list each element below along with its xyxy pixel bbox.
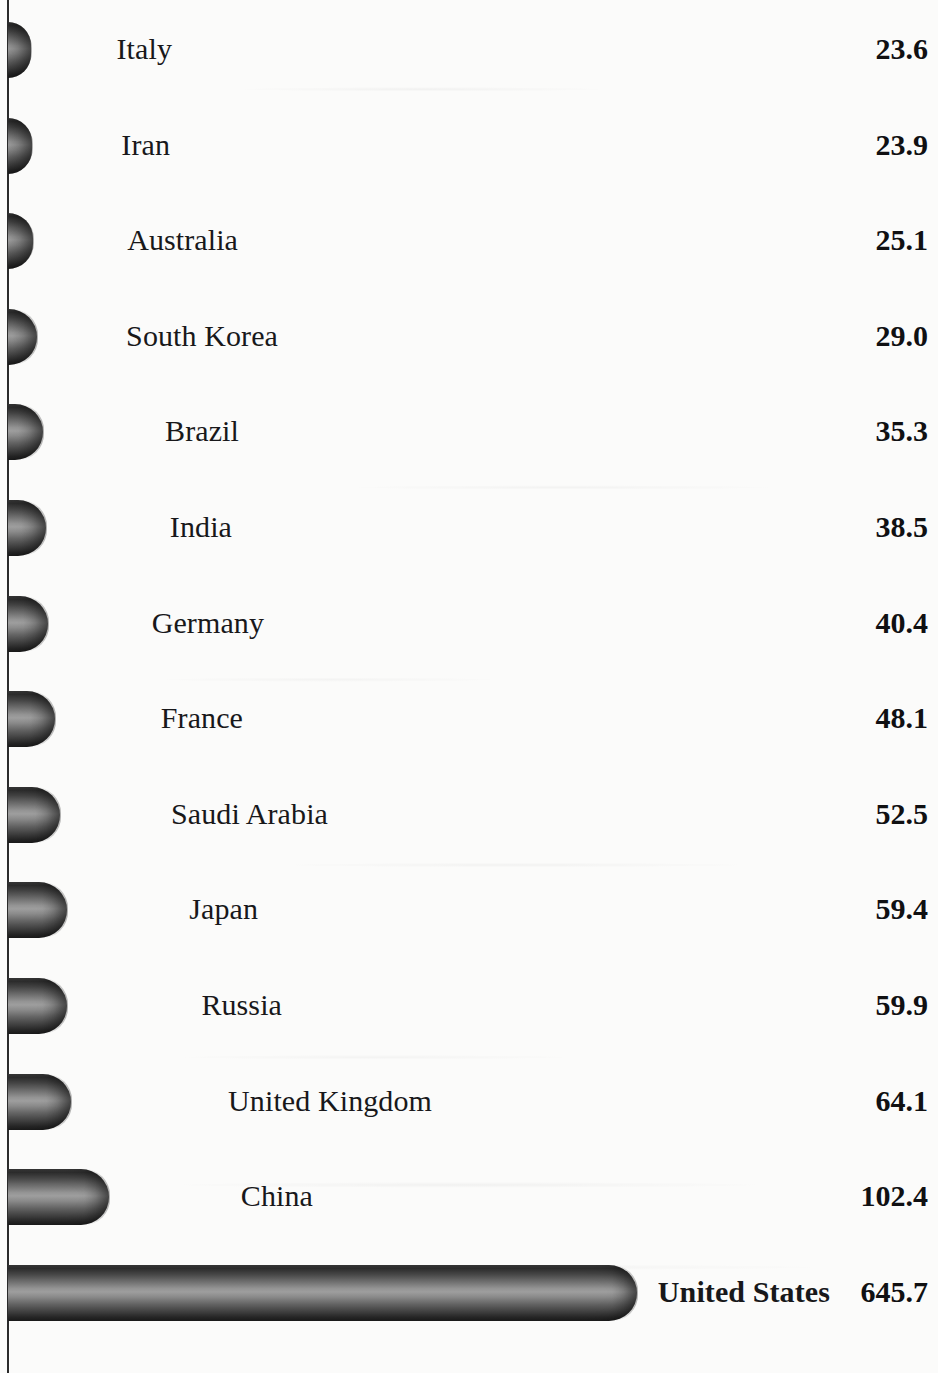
category-label: Iran [121,122,170,168]
category-label: France [161,695,243,741]
bar-south-korea [8,309,37,365]
bar-united-states [8,1265,637,1321]
category-label: Brazil [165,408,239,454]
bar-australia [8,213,33,269]
category-label: Australia [127,217,238,263]
chart-row: Japan59.4 [0,862,938,958]
category-label: China [241,1173,313,1219]
category-label: Italy [117,26,172,72]
bar-japan [8,882,67,938]
bar-india [8,500,46,556]
value-label: 38.5 [768,504,928,550]
bar-iran [8,118,32,174]
value-label: 59.4 [768,886,928,932]
chart-row: Iran23.9 [0,98,938,194]
chart-row: South Korea29.0 [0,289,938,385]
chart-row: Italy23.6 [0,2,938,98]
category-label: United Kingdom [228,1078,432,1124]
bar-italy [8,22,31,78]
value-label: 23.9 [768,122,928,168]
value-label: 59.9 [768,982,928,1028]
chart-row: India38.5 [0,480,938,576]
bar-russia [8,978,67,1034]
value-label: 52.5 [768,791,928,837]
bar-brazil [8,404,43,460]
chart-row: United States645.7 [0,1245,938,1341]
bar-germany [8,596,48,652]
value-label: 23.6 [768,26,928,72]
chart-row: Saudi Arabia52.5 [0,767,938,863]
value-label: 64.1 [768,1078,928,1124]
value-label: 102.4 [768,1173,928,1219]
chart-row: Germany40.4 [0,576,938,672]
bar-france [8,691,55,747]
category-label: Russia [201,982,282,1028]
value-label: 48.1 [768,695,928,741]
category-label: South Korea [126,313,278,359]
category-label: Saudi Arabia [171,791,328,837]
value-label: 29.0 [768,313,928,359]
value-label: 25.1 [768,217,928,263]
category-label: Japan [189,886,258,932]
bar-united-kingdom [8,1074,71,1130]
bar-china [8,1169,109,1225]
value-label: 35.3 [768,408,928,454]
bar-chart: Italy23.6Iran23.9Australia25.1South Kore… [0,0,938,1373]
value-label: 40.4 [768,600,928,646]
category-label: India [170,504,232,550]
chart-row: United Kingdom64.1 [0,1054,938,1150]
value-label: 645.7 [768,1269,928,1315]
chart-row: Brazil35.3 [0,384,938,480]
chart-row: China102.4 [0,1149,938,1245]
bar-saudi-arabia [8,787,60,843]
chart-row: Australia25.1 [0,193,938,289]
category-label: Germany [152,600,264,646]
chart-row: Russia59.9 [0,958,938,1054]
chart-row: France48.1 [0,671,938,767]
